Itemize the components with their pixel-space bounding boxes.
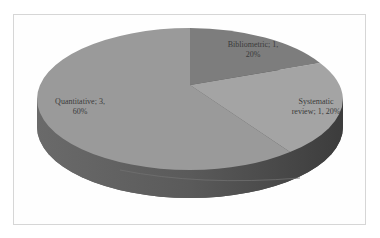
- label-quantitative-line2: 60%: [40, 107, 120, 117]
- label-bibliometric-line2: 20%: [218, 50, 288, 60]
- label-systematic-line2: review; 1, 20%: [276, 107, 356, 117]
- label-bibliometric: Bibliometric; 1, 20%: [218, 40, 288, 60]
- label-systematic-line1: Systematic: [276, 97, 356, 107]
- label-bibliometric-line1: Bibliometric; 1,: [218, 40, 288, 50]
- label-systematic-review: Systematic review; 1, 20%: [276, 97, 356, 117]
- label-quantitative-line1: Quantitative; 3,: [40, 97, 120, 107]
- pie-chart: [0, 0, 380, 238]
- label-quantitative: Quantitative; 3, 60%: [40, 97, 120, 117]
